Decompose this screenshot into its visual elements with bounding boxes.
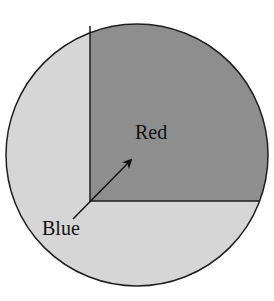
red-label: Red — [135, 121, 167, 143]
blue-label: Blue — [42, 217, 80, 239]
spinner-diagram: Red Blue — [0, 0, 274, 301]
red-region — [90, 0, 274, 201]
